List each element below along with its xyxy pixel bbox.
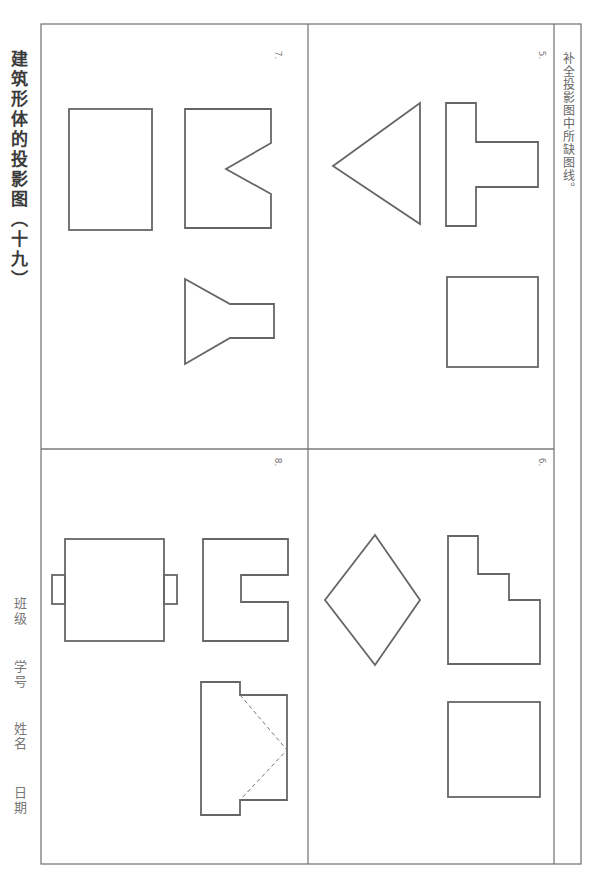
problem-number-7: 7. (273, 51, 283, 60)
student-id-field-label: 学号 (10, 660, 29, 690)
problem-number-5: 5. (537, 51, 547, 60)
problem-6-figures (325, 535, 540, 797)
instruction-text: 补全投影图中所缺图线。 (559, 52, 576, 195)
problem-7-figures (69, 109, 274, 364)
worksheet-drawing (0, 0, 590, 877)
worksheet-page: 建筑形体的投影图（十九） 班级 学号 姓名 日期 补全投影图中所缺图线。 5. … (0, 0, 590, 877)
left-tab (52, 575, 65, 604)
right-tab (164, 575, 177, 604)
t-shape-view (446, 103, 538, 226)
outer-frame (41, 24, 581, 864)
date-field-label: 日期 (10, 786, 29, 816)
stepped-view (448, 536, 540, 664)
problem-8-figures (52, 539, 288, 815)
name-field-label: 姓名 (10, 722, 29, 752)
problem-number-6: 6. (537, 458, 547, 467)
u-slot-view (203, 539, 288, 641)
problem-5-figures (333, 103, 538, 367)
diamond-view (325, 535, 420, 665)
triangle-view (333, 103, 420, 224)
main-rectangle-view (65, 539, 164, 641)
rectangle-view (69, 109, 152, 230)
hidden-lines (240, 695, 287, 800)
problem-number-8: 8. (273, 458, 283, 467)
v-notch-view (185, 109, 271, 228)
funnel-view (185, 279, 274, 364)
square-view (447, 277, 538, 367)
square-view (448, 702, 540, 797)
page-title: 建筑形体的投影图（十九） (6, 50, 31, 290)
class-field-label: 班级 (10, 597, 29, 627)
